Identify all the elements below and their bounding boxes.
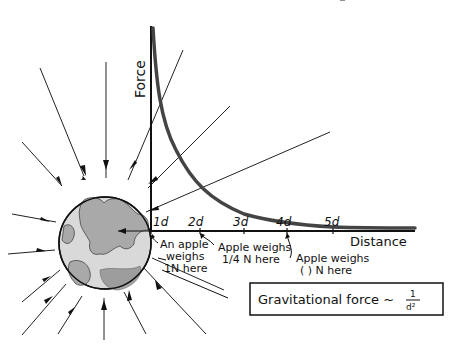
y-axis-label: Force — [132, 60, 148, 98]
diagram-canvas: Force Distance 1d 2d 3d 4d 5d An apple w… — [0, 0, 457, 344]
axes — [151, 26, 415, 232]
formula-denominator: d² — [406, 302, 416, 312]
tick-3d: 3d — [233, 215, 249, 229]
formula-text: Gravitational force ~ — [258, 292, 394, 307]
tick-2d: 2d — [188, 215, 204, 229]
annotation-2d-line2: 1/4 N here — [222, 253, 280, 266]
tick-5d: 5d — [324, 215, 340, 229]
force-curve — [153, 28, 415, 228]
tick-1d: 1d — [153, 215, 169, 229]
tick-4d: 4d — [276, 215, 292, 229]
formula-box: Gravitational force ~ 1 d² — [250, 283, 443, 315]
gravity-diagram: Force Distance 1d 2d 3d 4d 5d An apple w… — [0, 0, 457, 344]
earth-globe — [59, 197, 151, 290]
annotation-4d-line2: ( ) N here — [300, 264, 352, 277]
annotation-1d-line3: 1N here — [164, 262, 208, 275]
formula-numerator: 1 — [410, 289, 416, 299]
x-axis-label: Distance — [350, 234, 407, 249]
